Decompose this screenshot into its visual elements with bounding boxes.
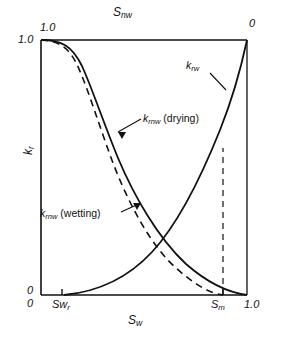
annotation-krnw-drying: krnw (drying) — [143, 113, 199, 126]
curve-krnw-wetting — [41, 40, 223, 295]
tick-label-y-one: 1.0 — [18, 34, 33, 45]
tick-label-x-one: 1.0 — [244, 299, 259, 310]
tick-label-y-zero: 0 — [27, 285, 33, 296]
top-axis-title: Snw — [113, 6, 132, 20]
x-axis-title: Sw — [128, 314, 142, 328]
annotation-krw: krw — [186, 60, 199, 73]
chart-canvas — [0, 0, 282, 342]
annotation-krnw-wetting: krnw (wetting) — [40, 208, 101, 221]
y-axis-title: kr — [22, 146, 36, 155]
tick-label-sm: Sm — [211, 299, 225, 312]
curve-krnw-drying — [41, 40, 247, 295]
leader-drying — [118, 119, 141, 132]
tick-label-x-zero: 0 — [27, 298, 33, 309]
leader-krw — [210, 73, 226, 90]
tick-label-top-left: 1.0 — [40, 22, 55, 33]
tick-label-top-right: 0 — [249, 18, 255, 29]
leader-drying-arrow — [118, 132, 126, 139]
relative-permeability-chart: Snw Sw kr 1.0 1.0 0 0 0 Swr Sm 1.0 krnw … — [0, 0, 282, 342]
tick-label-swr: Swr — [52, 299, 70, 312]
curve-krw — [64, 40, 247, 295]
